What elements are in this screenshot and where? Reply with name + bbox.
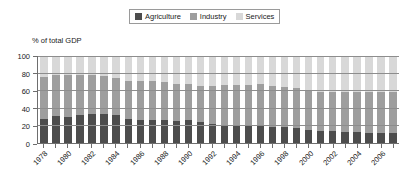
bar-group-2006[interactable]	[375, 56, 387, 143]
y-axis-tick-label: 20	[22, 122, 30, 131]
bar-segment-agriculture	[305, 130, 312, 143]
bar-segment-agriculture	[281, 127, 288, 143]
bar-group-1986[interactable]	[134, 56, 146, 143]
bar-segment-industry	[389, 92, 396, 134]
bar-group-1983[interactable]	[98, 56, 110, 143]
bar-group-2002[interactable]	[327, 56, 339, 143]
x-axis-tick-mark	[43, 144, 44, 148]
x-axis-tick-mark	[357, 144, 358, 148]
bar-group-1991[interactable]	[194, 56, 206, 143]
x-axis-tick-mark	[212, 144, 213, 148]
bar-group-2001[interactable]	[315, 56, 327, 143]
bar-stack	[377, 56, 384, 143]
x-axis-label-1982: 1982	[79, 149, 97, 167]
bar-group-1981[interactable]	[74, 56, 86, 143]
bar-segment-agriculture	[365, 133, 372, 143]
bar-stack	[40, 56, 47, 143]
bar-group-2000[interactable]	[303, 56, 315, 143]
bar-segment-services	[100, 56, 107, 76]
x-axis-tick-mark	[200, 144, 201, 148]
bar-stack	[185, 56, 192, 143]
x-axis-tick-mark	[140, 144, 141, 148]
bar-stack	[341, 56, 348, 143]
x-axis-tick-mark	[308, 144, 309, 148]
bar-group-2005[interactable]	[363, 56, 375, 143]
bar-segment-agriculture	[100, 114, 107, 143]
bar-stack	[197, 56, 204, 143]
bar-segment-services	[64, 56, 71, 75]
bar-segment-industry	[245, 85, 252, 126]
bar-segment-agriculture	[317, 131, 324, 143]
bar-group-1987[interactable]	[146, 56, 158, 143]
bar-stack	[137, 56, 144, 143]
bar-segment-services	[185, 56, 192, 84]
bar-segment-agriculture	[209, 124, 216, 143]
x-axis-tick-mark	[115, 144, 116, 148]
bar-group-1992[interactable]	[206, 56, 218, 143]
legend-item-services[interactable]: Services	[236, 13, 275, 21]
x-axis-tick-mark	[176, 144, 177, 148]
legend-swatch-icon	[135, 13, 142, 20]
bar-segment-agriculture	[353, 132, 360, 143]
bar-group-1989[interactable]	[170, 56, 182, 143]
bar-group-1995[interactable]	[243, 56, 255, 143]
bar-group-1999[interactable]	[291, 56, 303, 143]
x-axis-label-1992: 1992	[200, 149, 218, 167]
x-axis-tick-mark	[103, 144, 104, 148]
bar-group-1996[interactable]	[255, 56, 267, 143]
x-axis-tick-mark	[296, 144, 297, 148]
bar-stack	[112, 56, 119, 143]
x-axis-tick-mark	[152, 144, 153, 148]
legend-swatch-icon	[236, 13, 243, 20]
bar-group-1985[interactable]	[122, 56, 134, 143]
bar-segment-services	[221, 56, 228, 85]
x-axis-tick-mark	[320, 144, 321, 148]
bar-group-1994[interactable]	[231, 56, 243, 143]
x-axis-tick-mark	[345, 144, 346, 148]
x-axis-tick-mark	[55, 144, 56, 148]
bar-group-1997[interactable]	[267, 56, 279, 143]
bar-stack	[100, 56, 107, 143]
bar-segment-services	[125, 56, 132, 81]
bar-group-1979[interactable]	[50, 56, 62, 143]
bar-segment-agriculture	[149, 120, 156, 143]
bar-group-1988[interactable]	[158, 56, 170, 143]
bar-segment-industry	[329, 92, 336, 131]
bar-stack	[173, 56, 180, 143]
bar-group-2007[interactable]	[387, 56, 399, 143]
bar-segment-services	[257, 56, 264, 84]
bar-segment-industry	[365, 92, 372, 133]
bar-segment-services	[173, 56, 180, 84]
bar-segment-services	[329, 56, 336, 92]
bar-group-1993[interactable]	[218, 56, 230, 143]
x-axis-label-1978: 1978	[31, 149, 49, 167]
bar-segment-agriculture	[185, 120, 192, 143]
bar-segment-industry	[64, 75, 71, 117]
x-axis-label-2006: 2006	[369, 149, 387, 167]
bar-segment-services	[341, 56, 348, 92]
legend-item-agriculture[interactable]: Agriculture	[135, 13, 181, 21]
bar-group-1998[interactable]	[279, 56, 291, 143]
bar-stack	[329, 56, 336, 143]
bar-stack	[88, 56, 95, 143]
bar-group-2003[interactable]	[339, 56, 351, 143]
bar-segment-industry	[353, 92, 360, 132]
bar-group-1984[interactable]	[110, 56, 122, 143]
plot-area	[37, 56, 399, 144]
bar-segment-agriculture	[377, 133, 384, 143]
bar-segment-industry	[100, 76, 107, 114]
bar-group-1980[interactable]	[62, 56, 74, 143]
x-axis-tick-mark	[260, 144, 261, 148]
bar-group-2004[interactable]	[351, 56, 363, 143]
y-axis-title: % of total GDP	[32, 36, 82, 45]
legend-item-industry[interactable]: Industry	[190, 13, 227, 21]
bar-segment-agriculture	[293, 128, 300, 143]
bar-group-1990[interactable]	[182, 56, 194, 143]
x-axis-tick-mark	[236, 144, 237, 148]
bar-segment-industry	[221, 85, 228, 126]
bar-segment-agriculture	[76, 115, 83, 143]
bar-group-1982[interactable]	[86, 56, 98, 143]
bar-group-1978[interactable]	[38, 56, 50, 143]
bar-segment-services	[76, 56, 83, 75]
x-axis-label-1986: 1986	[128, 149, 146, 167]
